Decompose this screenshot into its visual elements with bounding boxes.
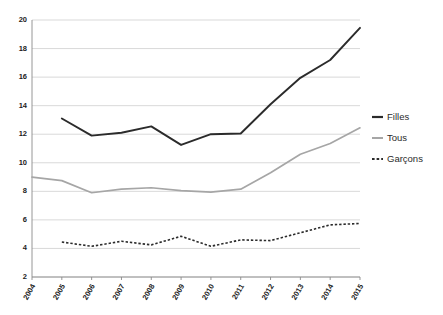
chart-canvas: 2468101214161820 20042005200620072008200… [0,0,443,315]
y-tick-label: 2 [23,272,27,281]
x-tick-label: 2015 [349,283,365,302]
x-tick-label: 2009 [170,283,186,302]
x-tick-labels: 2004200520062007200820092010201120122013… [21,282,365,302]
series-line-filles [62,28,360,145]
legend-label-filles: Filles [387,111,409,122]
line-chart: 2468101214161820 20042005200620072008200… [0,0,443,315]
x-tick-label: 2012 [260,283,276,302]
x-tick-label: 2013 [289,283,305,302]
x-tick-label: 2004 [21,282,38,302]
y-tick-label: 6 [23,215,27,224]
y-tick-label: 12 [19,129,27,138]
y-tick-label: 14 [19,101,28,110]
chart-legend: FillesTousGarçons [372,111,423,164]
x-tick-label: 2011 [230,283,246,302]
y-tick-label: 20 [19,15,27,24]
gridlines [32,20,360,277]
x-tick-label: 2005 [51,283,67,302]
series-line-garcons [62,223,360,246]
x-tick-label: 2008 [140,283,156,302]
x-tick-label: 2010 [200,283,216,302]
legend-label-garcons: Garçons [387,153,423,164]
y-tick-labels: 2468101214161820 [19,15,28,281]
x-tick-label: 2014 [319,282,336,302]
legend-label-tous: Tous [387,132,407,143]
y-tick-label: 10 [19,158,27,167]
x-tick-marks [32,277,360,280]
series-layer [32,28,360,246]
y-tick-label: 16 [19,72,27,81]
y-tick-label: 4 [23,243,28,252]
x-tick-label: 2006 [81,283,97,302]
x-tick-label: 2007 [111,283,127,302]
y-tick-label: 18 [19,44,27,53]
y-tick-label: 8 [23,186,27,195]
series-line-tous [32,128,360,193]
axes [32,20,360,277]
